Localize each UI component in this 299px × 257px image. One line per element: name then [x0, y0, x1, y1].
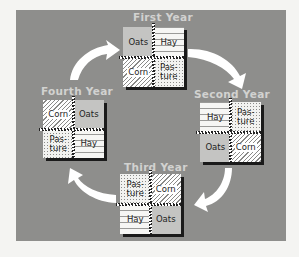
fence-horizontal	[116, 203, 181, 206]
crop-label: Corn	[47, 110, 69, 119]
arrow-down-left-icon	[194, 168, 232, 212]
crop-label: Hay	[127, 215, 144, 224]
crop-label-line: ture	[50, 143, 67, 153]
crop-label: Oats	[205, 143, 225, 152]
arrow-down-right-icon	[188, 49, 246, 89]
fence-horizontal	[196, 131, 261, 134]
crop-label: Pas-ture	[50, 135, 67, 153]
arrow-up-left-icon	[68, 168, 116, 203]
fence-horizontal	[119, 56, 184, 59]
crop-label: Hay	[160, 38, 177, 47]
crop-label: Corn	[155, 185, 177, 194]
crop-label: Pas-ture	[160, 63, 177, 81]
diagram-panel: First Year Oats Hay Corn Pas-ture Second…	[16, 10, 286, 241]
crop-label-line: ture	[127, 188, 144, 198]
crop-label: Hay	[207, 113, 224, 122]
crop-label: Corn	[235, 143, 257, 152]
fence-horizontal	[39, 128, 104, 131]
crop-label: Corn	[127, 68, 149, 77]
crop-label: Hay	[80, 139, 97, 148]
crop-label: Oats	[79, 110, 99, 119]
crop-label: Pas-ture	[237, 108, 254, 126]
crop-label-line: ture	[160, 71, 177, 81]
crop-label: Oats	[156, 215, 176, 224]
crop-label: Oats	[128, 38, 148, 47]
crop-label-line: Pas-	[50, 134, 67, 144]
crop-label-line: ture	[237, 116, 254, 126]
crop-label: Pas-ture	[127, 180, 144, 198]
arrow-up-right-icon	[70, 40, 120, 80]
